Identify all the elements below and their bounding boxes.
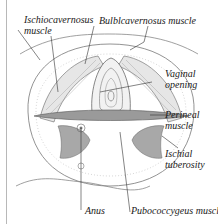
label-perineal-muscle: Perineal muscle — [165, 109, 199, 131]
label-vaginal-opening-line1: Vaginal — [165, 68, 197, 79]
label-ischial-tuberosity-line1: Ischial — [165, 148, 205, 159]
label-pubococcygeus: Pubococcygeus muscle — [131, 205, 218, 216]
label-ischial-tuberosity: Ischial tuberosity — [165, 148, 205, 170]
label-ischiocavernosus: Ischiocavernosus muscle — [24, 14, 93, 36]
label-ischiocavernosus-line2: muscle — [24, 25, 93, 36]
label-vaginal-opening: Vaginal opening — [165, 68, 197, 90]
label-bulbocavernosus: Bulblcavernosus muscle — [99, 15, 196, 26]
label-vaginal-opening-line2: opening — [165, 79, 197, 90]
label-perineal-muscle-line2: muscle — [165, 120, 199, 131]
label-ischiocavernosus-line1: Ischiocavernosus — [24, 14, 93, 25]
label-anus: Anus — [85, 205, 105, 216]
label-ischial-tuberosity-line2: tuberosity — [165, 159, 205, 170]
label-perineal-muscle-line1: Perineal — [165, 109, 199, 120]
